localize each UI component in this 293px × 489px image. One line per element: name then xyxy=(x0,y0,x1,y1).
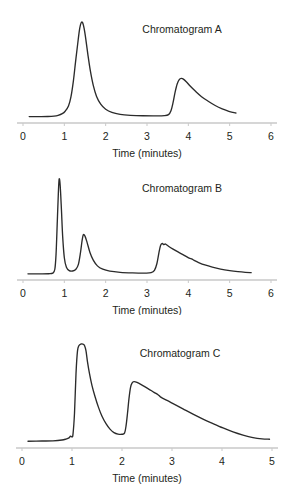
x-axis-tick-label: 2 xyxy=(119,455,125,467)
chromatogram-a-plot: 0123456Time (minutes)Chromatogram A xyxy=(0,0,293,165)
chromatogram-b-plot: 0123456Time (minutes)Chromatogram B xyxy=(0,165,293,315)
chromatogram-title: Chromatogram B xyxy=(142,182,222,194)
chromatogram-title: Chromatogram C xyxy=(140,347,221,359)
x-axis-tick-label: 0 xyxy=(19,455,25,467)
x-axis-tick-label: 2 xyxy=(103,287,109,299)
chromatogram-panel-c: 012345Time (minutes)Chromatogram C xyxy=(0,315,293,489)
x-axis-tick-label: 0 xyxy=(20,287,26,299)
chromatogram-figure: 0123456Time (minutes)Chromatogram A 0123… xyxy=(0,0,293,489)
chromatogram-panel-a: 0123456Time (minutes)Chromatogram A xyxy=(0,0,293,165)
x-axis-tick-label: 3 xyxy=(169,455,175,467)
x-axis-title: Time (minutes) xyxy=(112,147,182,159)
x-axis-tick-label: 4 xyxy=(185,287,191,299)
chromatogram-panel-b: 0123456Time (minutes)Chromatogram B xyxy=(0,165,293,315)
x-axis-tick-label: 3 xyxy=(144,287,150,299)
x-axis-tick-label: 5 xyxy=(227,287,233,299)
x-axis-tick-label: 0 xyxy=(20,130,26,142)
x-axis-tick-label: 6 xyxy=(268,287,274,299)
chromatogram-title: Chromatogram A xyxy=(142,23,221,35)
chromatogram-trace xyxy=(29,22,236,117)
x-axis-tick-label: 4 xyxy=(185,130,191,142)
x-axis-tick-label: 1 xyxy=(69,455,75,467)
x-axis-title: Time (minutes) xyxy=(112,304,182,315)
x-axis-tick-label: 6 xyxy=(268,130,274,142)
x-axis-tick-label: 2 xyxy=(103,130,109,142)
x-axis-title: Time (minutes) xyxy=(112,472,182,484)
x-axis-tick-label: 5 xyxy=(227,130,233,142)
x-axis-tick-label: 5 xyxy=(269,455,275,467)
x-axis-tick-label: 1 xyxy=(61,287,67,299)
x-axis-tick-label: 1 xyxy=(61,130,67,142)
x-axis-tick-label: 4 xyxy=(219,455,225,467)
chromatogram-c-plot: 012345Time (minutes)Chromatogram C xyxy=(0,315,293,489)
x-axis-tick-label: 3 xyxy=(144,130,150,142)
